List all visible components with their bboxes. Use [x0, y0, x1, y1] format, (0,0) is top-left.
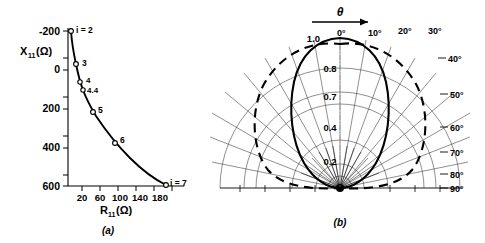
data-point-label-1: 3 [82, 58, 87, 68]
x-tick-label-4: 180 [152, 192, 168, 203]
panel-a-caption: (a) [102, 225, 115, 236]
x-axis-label-symbol: R [100, 204, 108, 216]
figure-container: -200 0 200 400 600 20 60 100 140 180 X [0, 0, 485, 243]
y-axis-label-symbol: X [20, 45, 28, 57]
x-axis-label-unit: (Ω) [116, 204, 132, 216]
radial-label-0.7: 0.7 [323, 91, 336, 102]
angle-label-leaders [438, 58, 448, 188]
data-point-label-5: 6 [120, 135, 125, 145]
angle-label-10: 10° [368, 28, 382, 38]
x-axis-label-subscript: 11 [108, 211, 116, 218]
angle-label-60: 60° [450, 123, 464, 133]
data-point-marker [164, 183, 169, 188]
y-axis-label-subscript: 11 [28, 52, 36, 59]
data-point-marker [81, 88, 85, 92]
panel-a-svg: -200 0 200 400 600 20 60 100 140 180 X [0, 0, 200, 243]
panel-b-polar-plot: θ 0° 10° 20° 30° 40° 50° 60° 70° 80° 90° [200, 0, 485, 243]
x-tick-label-2: 100 [112, 192, 128, 203]
x-axis-ticks [82, 186, 172, 191]
data-point-label-4: 5 [98, 105, 103, 115]
angle-label-80: 80° [450, 170, 464, 180]
data-point-label-2: 4 [86, 76, 91, 85]
data-point-marker [91, 110, 96, 115]
y-tick-label-0: -200 [39, 25, 60, 37]
angle-label-90: 90° [450, 184, 464, 194]
radial-label-1.0: 1.0 [307, 33, 320, 44]
panel-b-caption: (b) [334, 217, 347, 228]
radial-label-0.4: 0.4 [323, 122, 337, 133]
impedance-locus-curve [71, 31, 166, 185]
theta-arrow-head [360, 19, 368, 26]
y-tick-label-1: 0 [54, 63, 60, 75]
angle-label-30: 30° [428, 26, 442, 36]
data-point-marker [69, 29, 74, 34]
y-axis-ticks [63, 31, 68, 186]
x-tick-label-3: 140 [132, 192, 148, 203]
data-point-marker [78, 80, 82, 84]
y-axis-label: X 11 (Ω) [20, 45, 52, 59]
spoke-n60 [212, 113, 340, 188]
angle-label-20: 20° [398, 26, 412, 36]
angle-label-50: 50° [450, 90, 464, 100]
panel-a-impedance-plot: -200 0 200 400 600 20 60 100 140 180 X [0, 0, 200, 243]
data-point-marker [74, 62, 79, 67]
angle-label-70: 70° [450, 148, 464, 158]
x-tick-label-0: 20 [77, 192, 88, 203]
theta-symbol: θ [337, 5, 344, 19]
radial-label-0.8: 0.8 [323, 63, 336, 74]
radial-label-0.2: 0.2 [323, 156, 336, 167]
data-point-label-6: i = 7 [170, 178, 187, 188]
data-point-label-3: 4.4 [87, 86, 99, 95]
y-tick-label-4: 600 [42, 180, 60, 192]
y-tick-label-2: 200 [42, 102, 60, 114]
panel-b-svg: θ 0° 10° 20° 30° 40° 50° 60° 70° 80° 90° [200, 0, 485, 243]
data-markers [69, 29, 169, 188]
angle-label-40: 40° [448, 54, 462, 64]
x-axis-label: R 11 (Ω) [100, 204, 132, 218]
y-axis-label-unit: (Ω) [36, 45, 52, 57]
data-point-marker [113, 141, 118, 146]
theta-axis-label: θ [312, 5, 368, 26]
x-tick-label-1: 60 [95, 192, 106, 203]
angle-label-0: 0° [337, 28, 346, 38]
y-tick-label-3: 400 [42, 141, 60, 153]
data-point-label-0: i = 2 [76, 25, 93, 35]
